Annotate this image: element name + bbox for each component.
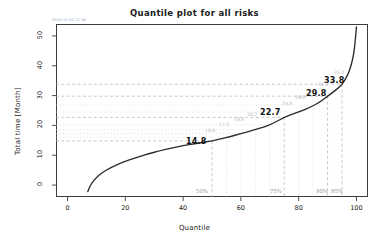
x-tick-label: 60 — [229, 204, 253, 212]
quantile-percent-label: 50% — [190, 188, 214, 194]
x-tick-label: 80 — [287, 204, 311, 212]
quantile-percent-label: 75% — [264, 188, 288, 194]
curve-value-label-faint: 35.2 — [334, 70, 344, 75]
curve-value-label-faint: 16.0 — [205, 128, 215, 133]
chart-root: Quantile plot for all risks 2019-11-02 1… — [0, 0, 389, 241]
curve-value-label-faint: 31.2 — [318, 82, 328, 87]
curve-value-label-faint: 20.2 — [247, 112, 257, 117]
curve-value-label: 22.7 — [260, 108, 281, 117]
y-tick-label: 0 — [36, 174, 44, 194]
curve-value-label-faint: 26.8 — [295, 95, 305, 100]
y-tick-label: 10 — [36, 144, 44, 164]
curve-value-label-faint: 17.2 — [219, 122, 229, 127]
y-tick-label: 20 — [36, 114, 44, 134]
x-tick-label: 0 — [56, 204, 80, 212]
curve-value-label: 14.8 — [186, 137, 207, 146]
y-tick-label: 40 — [36, 55, 44, 75]
curve-value-label: 29.8 — [306, 89, 327, 98]
y-tick-label: 30 — [36, 85, 44, 105]
curve-value-label-faint: 18.6 — [234, 117, 244, 122]
x-tick-label: 100 — [344, 204, 368, 212]
x-tick-label: 20 — [113, 204, 137, 212]
curve-value-label-faint: 24.5 — [282, 101, 292, 106]
quantile-percent-label: 95% — [325, 188, 349, 194]
x-tick-label: 40 — [171, 204, 195, 212]
y-axis-label: Total time [Month] — [14, 87, 22, 155]
y-tick-label: 50 — [36, 25, 44, 45]
x-axis-label: Quantile — [0, 224, 389, 232]
quantile-curve — [88, 27, 357, 192]
